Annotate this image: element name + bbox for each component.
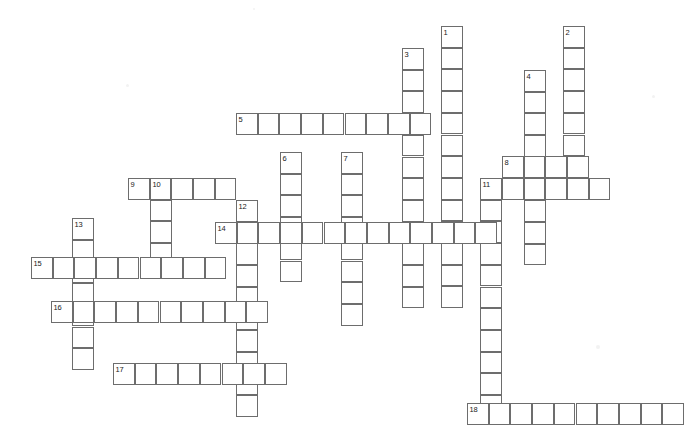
crossword-cell[interactable] <box>246 301 268 323</box>
crossword-cell[interactable] <box>215 222 237 244</box>
crossword-cell[interactable] <box>200 363 222 385</box>
crossword-cell[interactable] <box>563 48 585 70</box>
crossword-cell[interactable] <box>563 91 585 113</box>
crossword-cell[interactable] <box>388 113 410 135</box>
crossword-cell[interactable] <box>138 301 160 323</box>
crossword-cell[interactable] <box>302 222 324 244</box>
crossword-cell[interactable] <box>135 363 157 385</box>
crossword-cell[interactable] <box>73 301 95 323</box>
crossword-cell[interactable] <box>341 282 363 304</box>
crossword-cell[interactable] <box>74 257 96 279</box>
crossword-cell[interactable] <box>51 301 73 323</box>
crossword-cell[interactable] <box>441 91 463 113</box>
crossword-cell[interactable] <box>563 113 585 135</box>
crossword-cell[interactable] <box>554 403 576 425</box>
crossword-cell[interactable] <box>203 301 225 323</box>
crossword-cell[interactable] <box>402 91 424 113</box>
crossword-cell[interactable] <box>171 178 193 200</box>
crossword-grid[interactable]: 123456789101112131415161718 <box>0 0 699 446</box>
crossword-cell[interactable] <box>323 113 345 135</box>
crossword-cell[interactable] <box>589 178 611 200</box>
crossword-cell[interactable] <box>563 26 585 48</box>
crossword-cell[interactable] <box>441 69 463 91</box>
crossword-cell[interactable] <box>524 135 546 157</box>
crossword-cell[interactable] <box>181 301 203 323</box>
crossword-cell[interactable] <box>410 113 432 135</box>
crossword-cell[interactable] <box>402 178 424 200</box>
crossword-cell[interactable] <box>467 403 489 425</box>
crossword-cell[interactable] <box>441 286 463 308</box>
crossword-cell[interactable] <box>524 222 546 244</box>
crossword-cell[interactable] <box>441 200 463 222</box>
crossword-cell[interactable] <box>441 48 463 70</box>
crossword-cell[interactable] <box>402 287 424 309</box>
crossword-cell[interactable] <box>178 363 200 385</box>
crossword-cell[interactable] <box>480 287 502 309</box>
crossword-cell[interactable] <box>480 330 502 352</box>
crossword-cell[interactable] <box>243 363 265 385</box>
crossword-cell[interactable] <box>96 257 118 279</box>
crossword-cell[interactable] <box>402 157 424 179</box>
crossword-cell[interactable] <box>113 363 135 385</box>
crossword-cell[interactable] <box>524 156 546 178</box>
crossword-cell[interactable] <box>280 195 302 217</box>
crossword-cell[interactable] <box>341 261 363 283</box>
crossword-cell[interactable] <box>161 257 183 279</box>
crossword-cell[interactable] <box>441 265 463 287</box>
crossword-cell[interactable] <box>641 403 663 425</box>
crossword-cell[interactable] <box>441 135 463 157</box>
crossword-cell[interactable] <box>116 301 138 323</box>
crossword-cell[interactable] <box>402 70 424 92</box>
crossword-cell[interactable] <box>150 221 172 243</box>
crossword-cell[interactable] <box>156 363 178 385</box>
crossword-cell[interactable] <box>345 113 367 135</box>
crossword-cell[interactable] <box>597 403 619 425</box>
crossword-cell[interactable] <box>341 304 363 326</box>
crossword-cell[interactable] <box>389 222 411 244</box>
crossword-cell[interactable] <box>480 373 502 395</box>
crossword-cell[interactable] <box>619 403 641 425</box>
crossword-cell[interactable] <box>524 70 546 92</box>
crossword-cell[interactable] <box>524 92 546 114</box>
crossword-cell[interactable] <box>480 200 502 222</box>
crossword-cell[interactable] <box>563 135 585 157</box>
crossword-cell[interactable] <box>280 174 302 196</box>
crossword-cell[interactable] <box>576 403 598 425</box>
crossword-cell[interactable] <box>441 178 463 200</box>
crossword-cell[interactable] <box>183 257 205 279</box>
crossword-cell[interactable] <box>489 403 511 425</box>
crossword-cell[interactable] <box>662 403 684 425</box>
crossword-cell[interactable] <box>545 156 567 178</box>
crossword-cell[interactable] <box>72 327 94 349</box>
crossword-cell[interactable] <box>480 243 502 265</box>
crossword-cell[interactable] <box>280 152 302 174</box>
crossword-cell[interactable] <box>236 395 258 417</box>
crossword-cell[interactable] <box>402 135 424 157</box>
crossword-cell[interactable] <box>279 113 301 135</box>
crossword-cell[interactable] <box>502 156 524 178</box>
crossword-cell[interactable] <box>441 113 463 135</box>
crossword-cell[interactable] <box>480 178 502 200</box>
crossword-cell[interactable] <box>345 222 367 244</box>
crossword-cell[interactable] <box>402 48 424 70</box>
crossword-cell[interactable] <box>265 363 287 385</box>
crossword-cell[interactable] <box>341 195 363 217</box>
crossword-cell[interactable] <box>402 200 424 222</box>
crossword-cell[interactable] <box>366 113 388 135</box>
crossword-cell[interactable] <box>236 243 258 265</box>
crossword-cell[interactable] <box>222 363 244 385</box>
crossword-cell[interactable] <box>236 113 258 135</box>
crossword-cell[interactable] <box>532 403 554 425</box>
crossword-cell[interactable] <box>150 178 172 200</box>
crossword-cell[interactable] <box>567 178 589 200</box>
crossword-cell[interactable] <box>475 222 497 244</box>
crossword-cell[interactable] <box>524 113 546 135</box>
crossword-cell[interactable] <box>341 174 363 196</box>
crossword-cell[interactable] <box>545 178 567 200</box>
crossword-cell[interactable] <box>193 178 215 200</box>
crossword-cell[interactable] <box>524 244 546 266</box>
crossword-cell[interactable] <box>510 403 532 425</box>
crossword-cell[interactable] <box>480 308 502 330</box>
crossword-cell[interactable] <box>432 222 454 244</box>
crossword-cell[interactable] <box>441 156 463 178</box>
